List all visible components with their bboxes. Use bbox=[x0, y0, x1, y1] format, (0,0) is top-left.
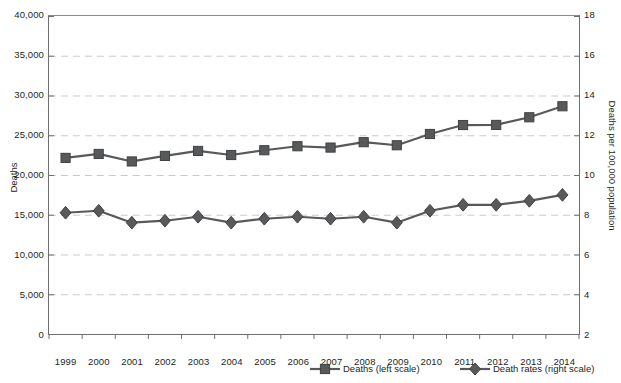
data-point-marker bbox=[293, 142, 302, 151]
data-point-marker bbox=[458, 198, 469, 211]
data-point-marker bbox=[94, 149, 103, 158]
data-point-marker bbox=[193, 210, 204, 223]
data-point-marker bbox=[226, 216, 237, 229]
left-axis-tick-label: 30,000 bbox=[0, 90, 44, 100]
data-point-marker bbox=[227, 150, 236, 159]
data-point-marker bbox=[126, 216, 137, 229]
right-axis-tick-label: 16 bbox=[584, 50, 612, 60]
right-axis-title: Deaths per 100,000 population bbox=[607, 86, 618, 246]
data-point-marker bbox=[93, 204, 104, 217]
data-point-marker bbox=[61, 153, 70, 162]
data-point-marker bbox=[524, 194, 535, 207]
legend-diamond-icon bbox=[460, 363, 490, 375]
left-axis-tick-label: 10,000 bbox=[0, 250, 44, 260]
chart-container: 05,00010,00015,00020,00025,00030,00035,0… bbox=[0, 0, 621, 383]
left-axis-title: Deaths bbox=[8, 148, 19, 208]
right-axis-tick-label: 18 bbox=[584, 10, 612, 20]
data-point-marker bbox=[160, 151, 169, 160]
data-point-marker bbox=[259, 212, 270, 225]
data-point-marker bbox=[127, 157, 136, 166]
series-line bbox=[66, 106, 563, 161]
data-point-marker bbox=[492, 120, 501, 129]
legend-square-icon bbox=[310, 363, 340, 375]
right-axis-tick-label: 2 bbox=[584, 330, 612, 340]
left-axis-tick-label: 25,000 bbox=[0, 130, 44, 140]
data-point-marker bbox=[159, 214, 170, 227]
plot-area: 1999200020012002200320042005200620072008… bbox=[48, 15, 580, 335]
data-point-marker bbox=[557, 189, 568, 202]
right-axis-tick-label: 6 bbox=[584, 250, 612, 260]
left-axis-tick-label: 5,000 bbox=[0, 290, 44, 300]
data-point-marker bbox=[193, 146, 202, 155]
data-point-marker bbox=[292, 210, 303, 223]
legend-item[interactable]: Deaths (left scale) bbox=[310, 363, 420, 375]
right-axis-tick-label: 4 bbox=[584, 290, 612, 300]
data-point-marker bbox=[260, 146, 269, 155]
left-axis-tick-label: 15,000 bbox=[0, 210, 44, 220]
data-point-marker bbox=[60, 206, 71, 219]
left-axis-tick-label: 40,000 bbox=[0, 10, 44, 20]
data-point-marker bbox=[425, 129, 434, 138]
data-series-layer bbox=[49, 16, 579, 334]
data-point-marker bbox=[525, 113, 534, 122]
series-line bbox=[66, 195, 563, 223]
legend-label: Deaths (left scale) bbox=[343, 363, 420, 375]
legend-item[interactable]: Death rates (right scale) bbox=[460, 363, 594, 375]
data-point-marker bbox=[424, 204, 435, 217]
data-point-marker bbox=[358, 210, 369, 223]
data-point-marker bbox=[491, 198, 502, 211]
data-point-marker bbox=[392, 141, 401, 150]
left-axis-tick-label: 35,000 bbox=[0, 50, 44, 60]
data-point-marker bbox=[391, 216, 402, 229]
left-axis-tick-label: 0 bbox=[0, 330, 44, 340]
data-point-marker bbox=[558, 102, 567, 111]
data-point-marker bbox=[359, 138, 368, 147]
chart-legend: Deaths (left scale)Death rates (right sc… bbox=[310, 363, 610, 379]
data-point-marker bbox=[326, 143, 335, 152]
data-point-marker bbox=[458, 120, 467, 129]
legend-label: Death rates (right scale) bbox=[493, 363, 594, 375]
data-point-marker bbox=[325, 212, 336, 225]
